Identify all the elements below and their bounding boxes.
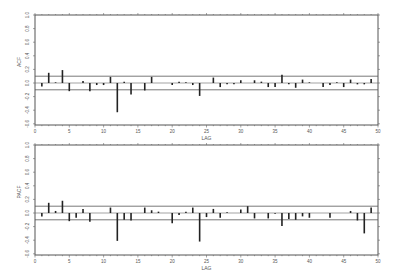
x-tick-label: 25 xyxy=(204,129,210,134)
y-tick-label: -0.6 xyxy=(25,249,30,257)
y-tick-label: 1.0 xyxy=(25,11,30,18)
y-tick-label: 0.8 xyxy=(25,155,30,162)
x-tick-label: 10 xyxy=(101,259,107,264)
x-tick-label: 35 xyxy=(273,259,279,264)
y-tick-label: -0.4 xyxy=(25,106,30,114)
x-tick-label: 40 xyxy=(307,259,313,264)
x-axis-title: LAG xyxy=(201,265,211,271)
y-tick-label: 0.6 xyxy=(25,169,30,176)
y-tick-label: 0.0 xyxy=(25,209,30,216)
x-tick-label: 40 xyxy=(307,129,313,134)
x-tick-label: 5 xyxy=(68,259,71,264)
x-tick-label: 20 xyxy=(170,129,176,134)
y-tick-label: -0.6 xyxy=(25,119,30,127)
y-tick-label: 0.2 xyxy=(25,196,30,203)
acf-panel: 1.00.80.60.40.20.0-0.2-0.4-0.6ACF0510152… xyxy=(16,11,381,141)
x-tick-label: 15 xyxy=(135,259,141,264)
y-tick-label: 0.0 xyxy=(25,79,30,86)
plot-frame xyxy=(35,145,378,255)
y-tick-label: 0.2 xyxy=(25,66,30,73)
x-tick-label: 5 xyxy=(68,129,71,134)
x-tick-label: 50 xyxy=(375,129,381,134)
x-tick-label: 45 xyxy=(341,259,347,264)
x-tick-label: 10 xyxy=(101,129,107,134)
x-tick-label: 0 xyxy=(34,259,37,264)
x-tick-label: 0 xyxy=(34,129,37,134)
x-tick-label: 35 xyxy=(273,129,279,134)
y-tick-label: 0.8 xyxy=(25,25,30,32)
plot-frame xyxy=(35,15,378,125)
x-tick-label: 15 xyxy=(135,129,141,134)
y-axis-title: ACF xyxy=(16,57,22,67)
y-tick-label: -0.2 xyxy=(25,92,30,100)
y-tick-label: 0.4 xyxy=(25,52,30,59)
pacf-panel: 1.00.80.60.40.20.0-0.2-0.4-0.6PACF051015… xyxy=(16,141,381,271)
acf-pacf-figure: 1.00.80.60.40.20.0-0.2-0.4-0.6ACF0510152… xyxy=(0,0,399,278)
y-tick-label: 1.0 xyxy=(25,141,30,148)
x-tick-label: 30 xyxy=(238,129,244,134)
y-axis-title: PACF xyxy=(16,186,22,199)
y-tick-label: -0.2 xyxy=(25,222,30,230)
x-tick-label: 25 xyxy=(204,259,210,264)
x-axis-title: LAG xyxy=(201,135,211,141)
y-tick-label: 0.4 xyxy=(25,182,30,189)
y-tick-label: 0.6 xyxy=(25,39,30,46)
x-tick-label: 50 xyxy=(375,259,381,264)
x-tick-label: 30 xyxy=(238,259,244,264)
x-tick-label: 45 xyxy=(341,129,347,134)
y-tick-label: -0.4 xyxy=(25,236,30,244)
x-tick-label: 20 xyxy=(170,259,176,264)
